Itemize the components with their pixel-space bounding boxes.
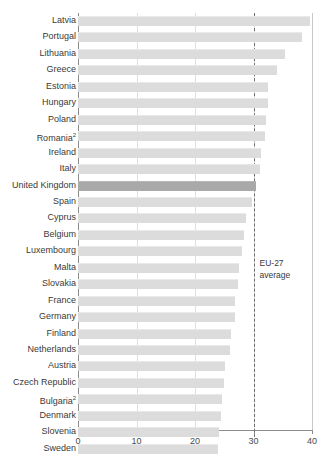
category-label-luxembourg: Luxembourg (26, 245, 76, 255)
bar-poland (78, 115, 266, 125)
chart-row: Austria (0, 358, 327, 374)
bar-chart: 010203040 EU-27average LatviaPortugalLit… (0, 0, 327, 458)
bar-spain (78, 197, 252, 207)
category-label-greece: Greece (46, 64, 76, 74)
chart-row: France (0, 293, 327, 309)
bar-bulgaria (78, 394, 222, 404)
category-label-denmark: Denmark (39, 410, 76, 420)
bar-cyprus (78, 213, 246, 223)
bar-lithuania (78, 49, 285, 59)
bar-hungary (78, 98, 268, 108)
category-label-portugal: Portugal (42, 31, 76, 41)
chart-row: Spain (0, 194, 327, 210)
bar-denmark (78, 411, 221, 421)
bar-slovakia (78, 279, 238, 289)
chart-row: Greece (0, 62, 327, 78)
chart-row: Netherlands (0, 342, 327, 358)
chart-row: Sweden (0, 441, 327, 457)
category-label-lithuania: Lithuania (39, 48, 76, 58)
chart-row: Malta (0, 260, 327, 276)
category-label-united-kingdom: United Kingdom (12, 180, 76, 190)
bar-estonia (78, 82, 268, 92)
category-label-cyprus: Cyprus (47, 212, 76, 222)
chart-row: Romania2 (0, 128, 327, 144)
category-label-poland: Poland (48, 114, 76, 124)
category-label-hungary: Hungary (42, 97, 76, 107)
chart-row: Poland (0, 112, 327, 128)
category-label-estonia: Estonia (46, 81, 76, 91)
bar-netherlands (78, 345, 230, 355)
chart-row: Luxembourg (0, 243, 327, 259)
category-label-germany: Germany (39, 311, 76, 321)
bar-malta (78, 263, 239, 273)
category-label-czech-republic: Czech Republic (13, 377, 76, 387)
category-label-malta: Malta (54, 262, 76, 272)
chart-row: Czech Republic (0, 375, 327, 391)
category-label-slovenia: Slovenia (41, 426, 76, 436)
footnote-marker: 2 (73, 132, 76, 138)
chart-row: Estonia (0, 79, 327, 95)
bar-slovenia (78, 427, 219, 437)
bar-greece (78, 65, 277, 75)
bar-latvia (78, 16, 310, 26)
chart-row: Denmark (0, 408, 327, 424)
chart-row: Ireland (0, 145, 327, 161)
bar-portugal (78, 32, 302, 42)
category-label-netherlands: Netherlands (27, 344, 76, 354)
chart-row: Germany (0, 309, 327, 325)
bar-finland (78, 329, 231, 339)
category-label-latvia: Latvia (52, 15, 76, 25)
chart-row: Italy (0, 161, 327, 177)
bar-belgium (78, 230, 244, 240)
category-label-belgium: Belgium (43, 229, 76, 239)
chart-row: Hungary (0, 95, 327, 111)
chart-row: Finland (0, 326, 327, 342)
bar-luxembourg (78, 246, 242, 256)
chart-row: Lithuania (0, 46, 327, 62)
chart-row: Cyprus (0, 210, 327, 226)
chart-row: Portugal (0, 29, 327, 45)
bar-france (78, 296, 235, 306)
category-label-italy: Italy (59, 163, 76, 173)
bar-germany (78, 312, 235, 322)
category-label-bulgaria: Bulgaria2 (40, 393, 76, 406)
bar-austria (78, 361, 225, 371)
chart-row: Latvia (0, 13, 327, 29)
chart-row: Bulgaria2 (0, 391, 327, 407)
category-label-sweden: Sweden (43, 443, 76, 453)
bar-romania (78, 131, 265, 141)
category-label-france: France (48, 295, 76, 305)
footnote-marker: 2 (73, 395, 76, 401)
category-label-spain: Spain (53, 196, 76, 206)
chart-row: United Kingdom (0, 178, 327, 194)
bar-czech-republic (78, 378, 224, 388)
category-label-romania: Romania2 (37, 130, 76, 143)
bar-italy (78, 164, 260, 174)
bar-ireland (78, 148, 261, 158)
bar-sweden (78, 444, 218, 454)
chart-row: Slovakia (0, 276, 327, 292)
chart-row: Slovenia (0, 424, 327, 440)
bar-united-kingdom (78, 181, 256, 191)
category-label-austria: Austria (48, 360, 76, 370)
category-label-finland: Finland (46, 328, 76, 338)
category-label-ireland: Ireland (48, 147, 76, 157)
chart-row: Belgium (0, 227, 327, 243)
category-label-slovakia: Slovakia (42, 278, 76, 288)
